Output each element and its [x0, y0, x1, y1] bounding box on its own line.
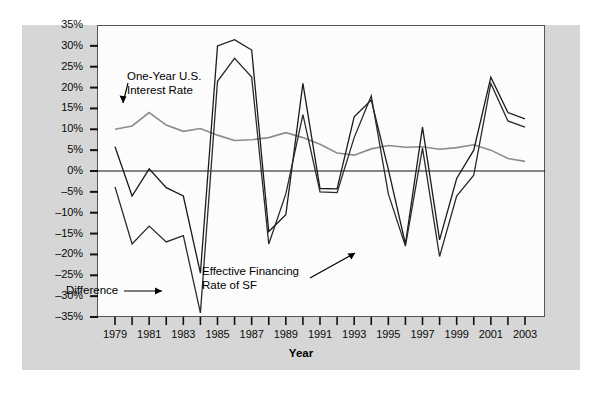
chart-figure: 35%30%25%20%15%10%5%0%–5%–10%–15%–20%–25… [22, 25, 580, 370]
annotation-effective-financing: Effective FinancingRate of SF [202, 265, 299, 292]
y-tick-marks [90, 46, 98, 317]
annotation-interest-rate-line1: One-Year U.S. [127, 70, 201, 82]
annotation-effective-financing-line2: Rate of SF [202, 279, 257, 291]
arrow-effective-financing [310, 253, 355, 278]
y-axis-label: –15% [27, 227, 83, 239]
y-axis-label: 10% [27, 122, 83, 134]
annotation-difference: Difference [66, 284, 118, 298]
y-axis-label: 5% [27, 143, 83, 155]
x-axis-title: Year [22, 347, 580, 359]
y-axis-label: –25% [27, 268, 83, 280]
arrow-difference-head [155, 288, 162, 295]
y-axis-label: –35% [27, 310, 83, 322]
y-axis-label: 15% [27, 101, 83, 113]
y-axis-label: 0% [27, 164, 83, 176]
y-axis-label: 20% [27, 81, 83, 93]
annotation-interest-rate-line2: Interest Rate [127, 84, 193, 96]
annotation-interest-rate: One-Year U.S.Interest Rate [127, 70, 201, 97]
annotation-effective-financing-line1: Effective Financing [202, 265, 299, 277]
y-axis-label: 30% [27, 39, 83, 51]
y-axis-label: –5% [27, 185, 83, 197]
y-axis-label: 35% [27, 18, 83, 30]
y-axis-label: –20% [27, 247, 83, 259]
x-axis-label: 2003 [505, 328, 545, 340]
annotation-difference-label: Difference [66, 284, 118, 296]
y-axis-label: 25% [27, 60, 83, 72]
y-axis-label: –10% [27, 206, 83, 218]
x-tick-marks [115, 317, 525, 325]
series-line-0 [115, 113, 525, 162]
chart-svg [22, 25, 580, 370]
arrow-interest-rate-head [120, 96, 127, 104]
